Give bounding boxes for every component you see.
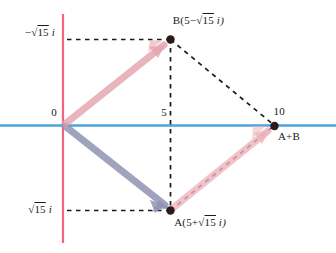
label-sum-point: A+B (278, 130, 300, 142)
vector-a-to-sum (173, 126, 270, 208)
label-point-a-prefix: A(5+ (174, 216, 198, 228)
complex-plane-figure: B(5−√15 i) A(5+√15 i) −√15 i √15 i 0 5 1… (0, 0, 336, 253)
label-sum-value: 10 (274, 105, 285, 117)
point-origin (61, 124, 65, 128)
label-imag-neg-suffix: i (49, 26, 55, 38)
label-imag-tick-positive: √15 i (28, 203, 52, 215)
label-point-b-prefix: B(5− (173, 14, 197, 26)
label-origin: 0 (51, 106, 57, 118)
label-point-a-suffix: i) (216, 216, 226, 228)
vector-oa (65, 126, 168, 213)
label-point-a: A(5+√15 i) (174, 216, 226, 228)
label-imag-pos-suffix: i (46, 203, 52, 215)
label-real-tick-5: 5 (161, 106, 167, 118)
label-imag-tick-negative: −√15 i (25, 26, 55, 38)
label-point-b-radicand: 15 (203, 14, 214, 26)
label-point-b-suffix: i) (214, 14, 224, 26)
label-imag-pos-radicand: 15 (34, 203, 45, 215)
label-point-b: B(5−√15 i) (173, 14, 224, 26)
parallelogram-edge-b-sum (171, 40, 275, 126)
label-imag-neg-radicand: 15 (37, 26, 48, 38)
point-sum (270, 122, 278, 130)
point-a (166, 206, 174, 214)
vector-ob (65, 40, 165, 124)
label-point-a-radicand: 15 (205, 216, 216, 228)
point-b (166, 35, 174, 43)
